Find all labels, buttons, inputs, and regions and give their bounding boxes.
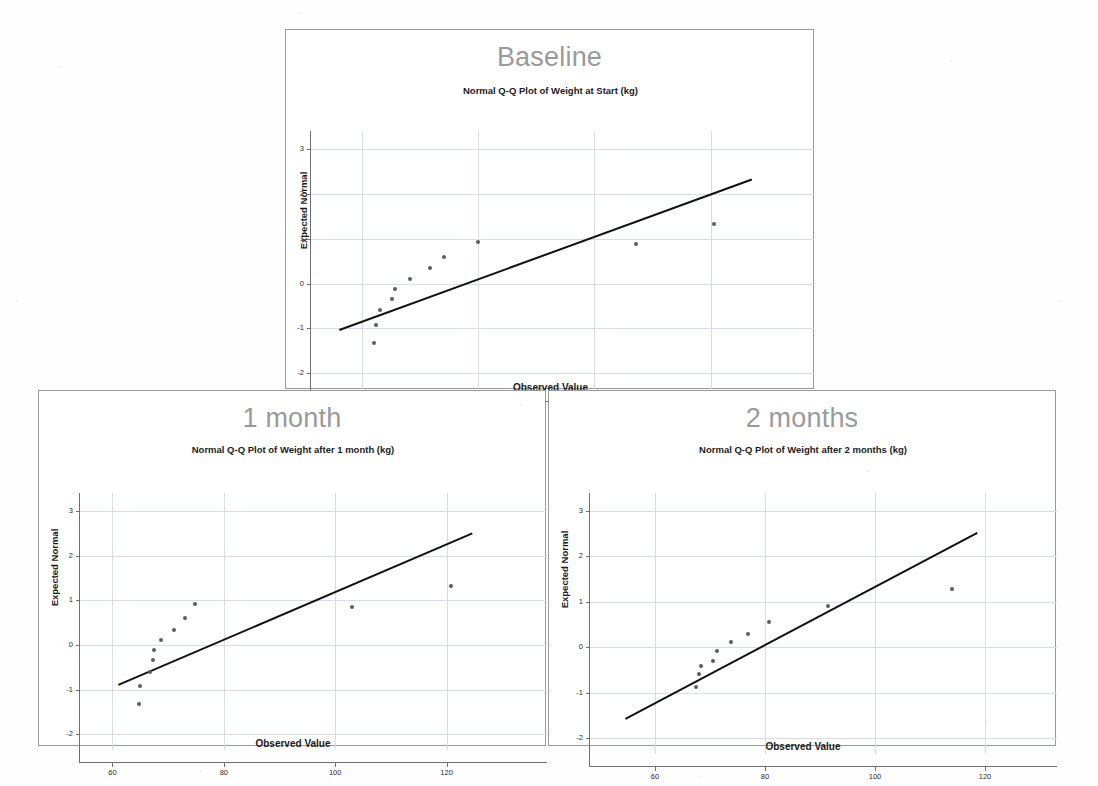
scan-artifact — [60, 66, 62, 68]
gridline-vertical — [765, 493, 766, 754]
data-point — [193, 602, 197, 606]
data-point — [148, 670, 152, 674]
gridline-vertical — [655, 493, 656, 754]
x-tick-label: 80 — [751, 772, 779, 781]
gridline-horizontal — [79, 511, 547, 512]
x-tick-label: 120 — [433, 768, 461, 777]
y-tick-label: 3 — [284, 144, 304, 153]
gridline-vertical — [875, 493, 876, 754]
gridline-horizontal — [589, 693, 1057, 694]
gridline-horizontal — [310, 373, 814, 374]
gridline-horizontal — [589, 602, 1057, 603]
data-point — [151, 658, 155, 662]
data-point — [449, 584, 453, 588]
data-point — [950, 587, 954, 591]
panel-title-one-month: 1 month — [39, 403, 545, 434]
data-point — [172, 628, 176, 632]
gridline-horizontal — [310, 149, 814, 150]
data-point — [372, 341, 376, 345]
data-point — [699, 664, 703, 668]
data-point — [767, 620, 771, 624]
y-axis-title-one-month: Expected Normal — [49, 513, 60, 623]
chart-baseline: Normal Q-Q Plot of Weight at Start (kg) … — [286, 85, 815, 385]
gridline-horizontal — [589, 511, 1057, 512]
scan-artifact — [200, 770, 202, 772]
gridline-vertical — [711, 131, 712, 389]
gridline-vertical — [594, 131, 595, 389]
x-axis-line — [589, 766, 1057, 767]
data-point — [374, 323, 378, 327]
x-tick-label: 120 — [971, 772, 999, 781]
data-point — [393, 287, 397, 291]
gridline-vertical — [112, 493, 113, 750]
x-tick-label: 100 — [861, 772, 889, 781]
x-axis-title-one-month: Observed Value — [39, 738, 547, 749]
scan-artifact — [950, 60, 952, 62]
x-tick-label: 60 — [641, 772, 669, 781]
panel-title-two-months: 2 months — [549, 403, 1055, 434]
scan-artifact — [16, 300, 18, 302]
chart-two-months: Normal Q-Q Plot of Weight after 2 months… — [549, 444, 1057, 744]
scan-artifact — [1060, 300, 1062, 302]
y-tick-label: -1 — [284, 323, 304, 332]
reference-line — [339, 179, 752, 331]
reference-line — [625, 532, 978, 720]
scan-artifact — [866, 470, 869, 472]
y-tick-label: -1 — [563, 688, 583, 697]
data-point — [711, 659, 715, 663]
x-tick-label: 60 — [98, 768, 126, 777]
scan-artifact — [986, 720, 988, 722]
scan-artifact — [300, 12, 302, 14]
data-point — [183, 616, 187, 620]
gridline-horizontal — [589, 556, 1057, 557]
data-point — [634, 242, 638, 246]
panel-title-baseline: Baseline — [286, 42, 813, 73]
x-axis-title-two-months: Observed Value — [549, 741, 1057, 752]
panel-two-months: 2 months Normal Q-Q Plot of Weight after… — [548, 390, 1056, 746]
y-axis-title-two-months: Expected Normal — [559, 515, 570, 625]
data-point — [390, 297, 394, 301]
data-point — [715, 649, 719, 653]
data-point — [746, 632, 750, 636]
plot-area-one-month: 3210-1-26080100120 — [39, 444, 547, 764]
y-tick-label: 0 — [53, 640, 73, 649]
gridline-vertical — [362, 131, 363, 389]
y-tick-label: -1 — [53, 685, 73, 694]
data-point — [442, 255, 446, 259]
data-point — [408, 277, 412, 281]
x-axis-line — [79, 762, 547, 763]
panel-one-month: 1 month Normal Q-Q Plot of Weight after … — [38, 390, 546, 746]
data-point — [694, 685, 698, 689]
x-tick-label: 100 — [321, 768, 349, 777]
gridline-horizontal — [310, 328, 814, 329]
scan-artifact — [700, 776, 702, 778]
data-point — [138, 684, 142, 688]
chart-one-month: Normal Q-Q Plot of Weight after 1 month … — [39, 444, 547, 744]
x-tick-label: 80 — [210, 768, 238, 777]
data-point — [428, 266, 432, 270]
gridline-horizontal — [589, 738, 1057, 739]
gridline-horizontal — [310, 239, 814, 240]
scan-artifact — [520, 404, 523, 406]
y-axis-line — [79, 493, 80, 763]
data-point — [159, 638, 163, 642]
gridline-horizontal — [310, 284, 814, 285]
gridline-horizontal — [589, 647, 1057, 648]
panel-baseline: Baseline Normal Q-Q Plot of Weight at St… — [285, 29, 814, 389]
y-axis-line — [589, 493, 590, 767]
data-point — [378, 308, 382, 312]
gridline-vertical — [447, 493, 448, 750]
data-point — [476, 240, 480, 244]
gridline-horizontal — [310, 194, 814, 195]
plot-area-baseline: 3210-1-26080100120 — [286, 85, 815, 405]
gridline-vertical — [478, 131, 479, 389]
gridline-vertical — [335, 493, 336, 750]
gridline-horizontal — [79, 734, 547, 735]
plot-area-two-months: 3210-1-26080100120 — [549, 444, 1057, 764]
y-tick-label: 0 — [284, 279, 304, 288]
gridline-vertical — [985, 493, 986, 754]
data-point — [712, 222, 716, 226]
gridline-vertical — [224, 493, 225, 750]
y-tick-label: -2 — [53, 729, 73, 738]
y-axis-title-baseline: Expected Normal — [298, 156, 309, 266]
